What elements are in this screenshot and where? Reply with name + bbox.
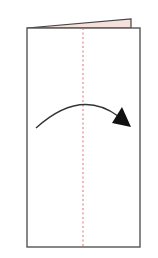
folded-flap — [27, 19, 131, 28]
paper-sheet — [27, 28, 140, 247]
origami-diagram — [0, 0, 158, 258]
